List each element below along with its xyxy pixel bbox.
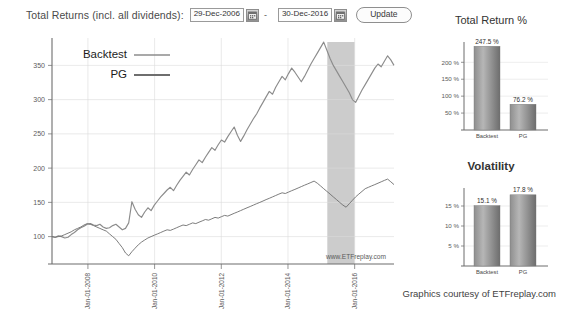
end-date-calendar-icon[interactable] [334, 9, 347, 22]
y-axis-tick-label: 200 [33, 165, 45, 172]
bar-pg [510, 195, 536, 266]
y-axis-tick-label: 10 % [445, 222, 460, 229]
bar-category-label: Backtest [476, 133, 499, 139]
toolbar-label: Total Returns (incl. all dividends): [26, 9, 184, 21]
y-axis-tick-label: 100 % [441, 92, 459, 99]
bar-value-label: 17.8 % [513, 186, 533, 193]
y-axis-tick-label: 200 % [441, 59, 459, 66]
y-axis-tick-label: 100 [33, 233, 45, 240]
y-axis-tick-label: 150 % [441, 75, 459, 82]
bar-value-label: 76.2 % [513, 96, 533, 103]
y-axis-tick-label: 350 [33, 62, 45, 69]
y-axis-tick-label: 5 % [448, 242, 459, 249]
growth-line-chart: 100150200250300350Jan-01-2008Jan-01-2010… [8, 32, 408, 310]
legend-label-backtest: Backtest [83, 48, 128, 60]
chart-watermark: www.ETFreplay.com [325, 253, 386, 261]
total-return-chart-title: Total Return % [424, 14, 558, 26]
shaded-region [327, 42, 354, 264]
bar-backtest [474, 46, 500, 130]
start-date-calendar-icon[interactable] [246, 9, 259, 22]
y-axis-tick-label: 150 [33, 199, 45, 206]
legend-label-pg: PG [110, 68, 127, 80]
bar-category-label: Backtest [476, 269, 499, 275]
y-axis-tick-label: 50 % [445, 109, 460, 116]
volatility-chart-title: Volatility [424, 160, 558, 172]
y-axis-tick-label: 250 [33, 130, 45, 137]
bar-backtest [474, 206, 500, 266]
bar-pg [510, 104, 536, 130]
update-button[interactable]: Update [356, 7, 411, 23]
bar-value-label: 247.5 % [475, 38, 499, 45]
y-axis-tick-label: 300 [33, 96, 45, 103]
bar-category-label: PG [519, 269, 528, 275]
credit-text: Graphics courtesy of ETFreplay.com [0, 288, 556, 299]
date-range-separator: - [264, 10, 267, 20]
end-date-input[interactable]: 30-Dec-2016 [278, 8, 332, 22]
y-axis-tick-label: 15 % [445, 202, 460, 209]
start-date-input[interactable]: 29-Dec-2006 [190, 8, 244, 22]
bar-value-label: 15.1 % [477, 197, 497, 204]
bar-category-label: PG [519, 133, 528, 139]
total-return-bar-chart: 50 %100 %150 %200 %247.5 %Backtest76.2 %… [430, 30, 558, 148]
volatility-bar-chart: 5 %10 %15 %15.1 %Backtest17.8 %PG [430, 176, 558, 284]
